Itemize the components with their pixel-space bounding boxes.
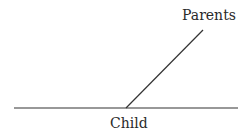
diagram: Parents Child	[0, 0, 249, 137]
parents-line	[126, 30, 203, 108]
parents-label: Parents	[182, 8, 236, 22]
child-label: Child	[110, 116, 148, 130]
